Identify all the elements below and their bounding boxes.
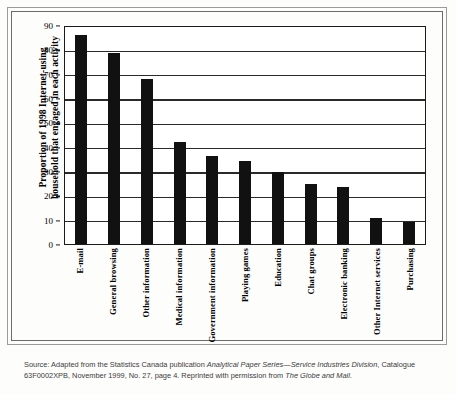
y-tick-mark <box>56 98 60 99</box>
x-label-slot: Purchasing <box>393 245 426 345</box>
bar <box>141 79 153 244</box>
x-label-slot: E-mail <box>64 245 97 345</box>
x-label-slot: Playing games <box>229 245 262 345</box>
bar-slot <box>163 27 196 244</box>
source-line1-italic: Analytical Paper Series—Service Industri… <box>207 360 377 369</box>
y-tick-mark <box>56 220 60 221</box>
x-label-slot: Other Internet services <box>360 245 393 345</box>
bar <box>174 142 186 244</box>
figure-container: Proportion of 1998 Internet-using househ… <box>0 0 456 395</box>
source-line2-italic: The Globe and Mail <box>285 371 350 380</box>
bar <box>206 156 218 244</box>
x-label-slot: Medical information <box>163 245 196 345</box>
y-tick-label: 60 <box>44 94 53 104</box>
bar-slot <box>130 27 163 244</box>
y-tick-label: 50 <box>44 118 53 128</box>
y-tick-mark <box>56 244 60 245</box>
bar-slot <box>65 27 98 244</box>
bar <box>239 161 251 244</box>
x-tick-label: Playing games <box>240 248 250 302</box>
x-tick-label: E-mail <box>75 248 85 273</box>
source-line2-suffix: . <box>350 371 352 380</box>
y-tick-mark <box>56 74 60 75</box>
source-line1-suffix: , <box>377 360 379 369</box>
bar <box>403 222 415 244</box>
y-tick-label: 30 <box>44 167 53 177</box>
bar-slot <box>392 27 425 244</box>
x-label-slot: Electronic banking <box>327 245 360 345</box>
bar-slot <box>196 27 229 244</box>
x-tick-label: Chat groups <box>306 248 316 295</box>
x-tick-label: Other Internet services <box>372 248 382 335</box>
x-tick-label: Government information <box>207 248 217 343</box>
x-label-slot: Education <box>261 245 294 345</box>
bar <box>337 187 349 244</box>
y-tick-label: 10 <box>44 216 53 226</box>
bar-slot <box>294 27 327 244</box>
bar <box>272 172 284 244</box>
y-tick-label: 40 <box>44 143 53 153</box>
y-tick-mark <box>56 25 60 26</box>
y-tick-label: 80 <box>44 45 53 55</box>
x-tick-label: Education <box>273 248 283 287</box>
bar-slot <box>360 27 393 244</box>
bar <box>108 53 120 244</box>
bar-slot <box>98 27 131 244</box>
bar <box>370 218 382 244</box>
x-tick-label: Electronic banking <box>339 248 349 320</box>
y-tick-mark <box>56 50 60 51</box>
x-label-slot: Other information <box>130 245 163 345</box>
source-caption: Source: Adapted from the Statistics Cana… <box>24 360 438 381</box>
x-tick-label: General browsing <box>108 248 118 315</box>
bar-slot <box>327 27 360 244</box>
chart-frame: Proportion of 1998 Internet-using househ… <box>7 7 447 345</box>
x-tick-label: Medical information <box>174 248 184 326</box>
bar-slot <box>261 27 294 244</box>
x-label-slot: General browsing <box>97 245 130 345</box>
bar <box>305 184 317 244</box>
source-line1-prefix: Source: Adapted from the Statistics Cana… <box>24 360 207 369</box>
plot-area <box>64 26 426 245</box>
y-tick-mark <box>56 171 60 172</box>
y-tick-label: 20 <box>44 191 53 201</box>
y-tick-mark <box>56 123 60 124</box>
bar-series <box>65 27 425 244</box>
x-tick-label: Purchasing <box>405 248 415 290</box>
y-axis-tick-labels: 0102030405060708090 <box>8 26 60 245</box>
y-tick-label: 0 <box>49 240 54 250</box>
x-label-slot: Government information <box>196 245 229 345</box>
bar-slot <box>229 27 262 244</box>
source-line-1: Source: Adapted from the Statistics Cana… <box>24 360 379 369</box>
bar <box>75 35 87 244</box>
x-label-slot: Chat groups <box>294 245 327 345</box>
y-tick-label: 90 <box>44 21 53 31</box>
y-tick-label: 70 <box>44 70 53 80</box>
x-tick-label: Other information <box>141 248 151 318</box>
y-tick-mark <box>56 147 60 148</box>
y-tick-mark <box>56 196 60 197</box>
x-axis-category-labels: E-mailGeneral browsingOther informationM… <box>64 245 426 345</box>
